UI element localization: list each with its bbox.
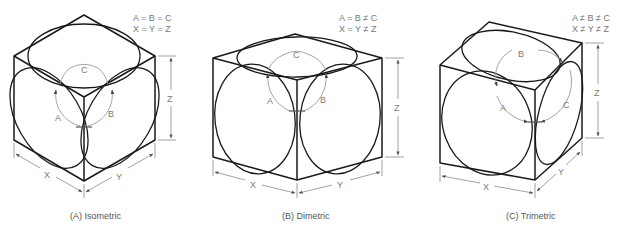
axonometric-projection-figure: C A B Z X Y A = B = C X = Y = Z (A) Isom… [0, 0, 626, 235]
dimension-label-y: Y [116, 172, 122, 182]
angle-label-b: B [320, 95, 326, 105]
angle-label-a: A [55, 113, 61, 123]
caption-dimetric: (B) Dimetric [282, 211, 330, 221]
equation-angles: A ≠ B ≠ C [572, 13, 610, 23]
angle-label-c: C [293, 50, 300, 60]
dimension-label-x: X [44, 170, 50, 180]
equation-axes: X ≠ Y ≠ Z [572, 24, 610, 34]
dimension-y-trimetric [537, 141, 582, 191]
angle-label-b: B [518, 49, 524, 59]
dimension-label-z: Z [594, 88, 600, 98]
dimension-x-dimetric [213, 160, 297, 198]
angle-label-c: C [81, 65, 88, 75]
equation-angles: A = B = C [133, 13, 172, 23]
equation-axes: X = Y = Z [133, 24, 171, 34]
panel-trimetric: B A C Z X Y A ≠ B ≠ C X ≠ Y ≠ Z (C) Trim… [428, 13, 611, 221]
dimension-label-z: Z [394, 103, 400, 113]
dimension-label-y: Y [337, 180, 343, 190]
panel-dimetric: C A B Z X Y A = B ≠ C X = Y ≠ Z (B) Dime… [209, 13, 404, 221]
caption-trimetric: (C) Trimetric [506, 211, 556, 221]
angle-label-a: A [500, 103, 506, 113]
angle-label-c: C [563, 100, 570, 110]
angle-label-a: A [267, 96, 273, 106]
dimension-label-x: X [250, 180, 256, 190]
panel-isometric: C A B Z X Y A = B = C X = Y = Z (A) Isom… [0, 13, 176, 221]
dimension-label-z: Z [167, 94, 173, 104]
dimension-label-y: Y [558, 167, 564, 177]
angle-label-b: B [108, 109, 114, 119]
caption-isometric: (A) Isometric [70, 211, 122, 221]
dimension-label-x: X [483, 182, 489, 192]
equation-angles: A = B ≠ C [339, 13, 378, 23]
equation-axes: X = Y ≠ Z [339, 24, 377, 34]
